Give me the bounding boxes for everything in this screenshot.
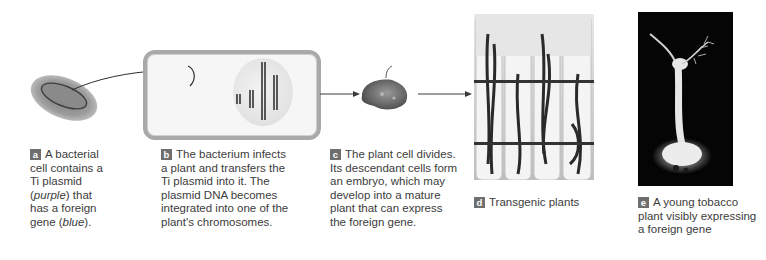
caption-step-d: dTransgenic plants	[474, 196, 594, 210]
arrowhead-icon	[353, 91, 360, 97]
step-badge-d: d	[474, 197, 485, 208]
caption-c-line-5: plant that can express	[330, 202, 443, 214]
caption-step-c: cThe plant cell divides. Its descendant …	[330, 148, 465, 230]
caption-e-line-1: A young tobacco	[653, 196, 738, 208]
step-badge-b: b	[161, 149, 172, 160]
step-badge-e: e	[638, 197, 649, 208]
step-badge-a: a	[30, 149, 41, 160]
caption-e-line-3: a foreign gene	[638, 223, 712, 235]
italic-blue: blue	[63, 216, 85, 228]
step-badge-c: c	[330, 149, 341, 160]
caption-b-line-4: plasmid DNA becomes	[161, 189, 277, 201]
caption-c-line-4: develop into a mature	[330, 189, 441, 201]
caption-b-line-3: Ti plasmid into it. The	[161, 175, 270, 187]
caption-c-line-1: The plant cell divides.	[345, 148, 456, 160]
caption-b-line-1: The bacterium infects	[176, 148, 286, 160]
caption-step-e: eA young tobacco plant visibly expressin…	[638, 196, 766, 237]
caption-c-line-6: the foreign gene.	[330, 216, 416, 228]
caption-a-line-3: Ti plasmid	[30, 175, 82, 187]
caption-a-line-1: A bacterial	[45, 148, 99, 160]
caption-b-line-6: plant's chromosomes.	[161, 216, 273, 228]
embryo-icon	[362, 66, 408, 109]
caption-a-line-2: cell contains a	[30, 162, 103, 174]
caption-c-line-3: an embryo, which may	[330, 175, 445, 187]
transgenic-plants-photo	[474, 14, 594, 180]
caption-b-line-5: integrated into one of the	[161, 202, 288, 214]
caption-a-line-6: gene (blue).	[30, 216, 91, 228]
caption-step-b: bThe bacterium infects a plant and trans…	[161, 148, 291, 230]
caption-e-line-2: plant visibly expressing	[638, 210, 756, 222]
glowing-tobacco-plant-photo	[638, 12, 733, 186]
caption-c-line-2: Its descendant cells form	[330, 162, 457, 174]
caption-step-a: aA bacterial cell contains a Ti plasmid …	[30, 148, 110, 230]
caption-a-line-4: (purple) that	[30, 189, 92, 201]
caption-a-line-5: has a foreign	[30, 202, 97, 214]
caption-b-line-2: a plant and transfers the	[161, 162, 285, 174]
italic-purple: purple	[34, 189, 66, 201]
caption-d-line-1: Transgenic plants	[489, 196, 579, 208]
arrowhead-icon	[465, 91, 472, 97]
